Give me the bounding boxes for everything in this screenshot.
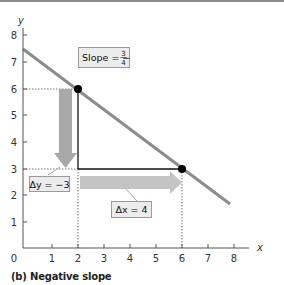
y-axis-label: y (17, 15, 25, 26)
x-ticks (52, 244, 234, 248)
point-6-3 (178, 165, 186, 173)
slope-label-box: Slope = − 3 4 (79, 48, 131, 68)
point-2-6 (74, 85, 82, 93)
slope-numerator: 3 (121, 50, 125, 58)
slope-chart: 1 2 3 4 5 6 7 8 0 1 2 3 4 5 6 7 8 y x Sl… (0, 0, 284, 285)
delta-x-arrow (80, 171, 182, 194)
x-axis-label: x (256, 242, 263, 253)
x-tick-label: 4 (127, 253, 133, 264)
y-tick-label: 1 (11, 217, 17, 228)
y-tick-label: 2 (11, 190, 17, 201)
delta-x-text: Δx = 4 (115, 204, 147, 215)
x-tick-label: 7 (205, 253, 211, 264)
x-tick-label: 6 (179, 253, 185, 264)
y-tick-label: 4 (11, 137, 17, 148)
x-tick-label: 3 (101, 253, 107, 264)
delta-y-label-box: Δy = −3 (29, 177, 69, 192)
y-tick-label: 5 (11, 110, 17, 121)
delta-x-leader (126, 189, 137, 201)
y-tick-label: 3 (11, 164, 17, 175)
x-tick-labels: 0 1 2 3 4 5 6 7 8 (11, 253, 237, 264)
y-tick-label: 8 (11, 30, 17, 41)
x-tick-label: 1 (49, 253, 55, 264)
x-tick-label: 2 (75, 253, 81, 264)
x-tick-label: 8 (231, 253, 237, 264)
y-tick-label: 6 (11, 84, 17, 95)
figure-caption: (b) Negative slope (11, 271, 111, 282)
y-tick-label: 7 (11, 57, 17, 68)
origin-label: 0 (11, 253, 17, 264)
delta-x-label-box: Δx = 4 (112, 202, 152, 218)
x-tick-label: 5 (153, 253, 159, 264)
y-tick-labels: 1 2 3 4 5 6 7 8 (11, 30, 17, 228)
delta-y-arrow (54, 89, 77, 168)
delta-y-leader (48, 167, 60, 175)
slope-denominator: 4 (121, 59, 126, 67)
delta-y-text: Δy = −3 (29, 179, 69, 190)
y-ticks (23, 35, 27, 222)
